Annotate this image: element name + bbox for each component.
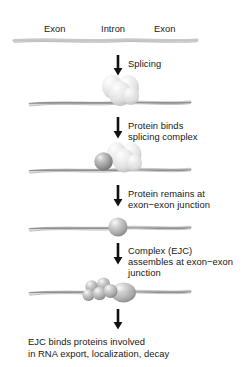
step-label-protein-binds-line1: Protein binds — [128, 120, 183, 132]
step-label-protein-binds-line2: splicing complex — [128, 131, 198, 143]
step-label-ejc-assembles-line2: assembles at exon−exon — [128, 256, 233, 268]
conclusion-line-1: EJC binds proteins involved — [28, 336, 145, 348]
stage-strand-with-single-protein — [30, 217, 190, 236]
stage-pre-mrna-strand — [14, 40, 197, 43]
ejc-assembly-diagram: Exon Intron Exon Splicing Protein binds … — [0, 0, 246, 367]
label-exon-left: Exon — [44, 24, 65, 36]
junction-protein-sphere — [108, 217, 127, 236]
step-label-protein-remains-line2: exon−exon junction — [128, 199, 210, 211]
label-exon-right: Exon — [154, 24, 175, 36]
bound-protein-sphere — [94, 152, 112, 170]
step-label-ejc-assembles-line1: Complex (EJC) — [128, 245, 192, 257]
spliceosome-complex — [102, 75, 139, 107]
diagram-canvas — [0, 0, 246, 367]
stage-strand-with-protein-and-spliceosome — [30, 142, 190, 173]
ejc-protein-cluster — [83, 277, 137, 302]
spliceosome-complex — [107, 142, 142, 173]
arrow-ejc-assembles — [114, 243, 123, 265]
step-label-protein-remains-line1: Protein remains at — [128, 188, 205, 200]
stage-spliced-strand-with-spliceosome — [30, 75, 190, 107]
arrow-splicing — [114, 55, 123, 76]
arrow-protein-binds — [114, 117, 123, 139]
step-label-ejc-assembles-line3: junction — [128, 267, 161, 279]
arrow-ejc-binds — [114, 309, 123, 330]
label-intron: Intron — [101, 24, 125, 36]
conclusion-line-2: in RNA export, localization, decay — [28, 348, 169, 360]
step-label-splicing: Splicing — [128, 58, 161, 70]
arrow-protein-remains — [114, 185, 123, 207]
stage-strand-with-ejc-cluster — [30, 277, 190, 302]
